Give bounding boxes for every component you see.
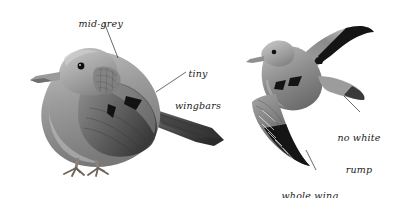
flying-dove-lower-wing-black-border <box>264 124 310 166</box>
annotation-no-white-rump-line1: no white <box>326 133 392 144</box>
annotation-mid-grey: mid-grey <box>72 8 123 29</box>
perched-dove-eye <box>78 63 85 70</box>
annotation-tiny-wingbars: tiny wingbars <box>160 48 236 122</box>
annotation-tiny-wingbars-line2: wingbars <box>160 101 236 112</box>
annotation-tiny-wingbars-line1: tiny <box>160 69 236 80</box>
flying-dove-eye <box>272 50 277 55</box>
annotation-mid-grey-text: mid-grey <box>78 18 123 29</box>
flying-dove-bill <box>246 56 264 63</box>
perched-dove-eye-highlight <box>79 64 81 66</box>
annotation-whole-wing-bordered-black: whole wing bordered black <box>254 170 366 198</box>
leader-line-whole-wing <box>306 150 316 170</box>
annotation-whole-wing-line1: whole wing <box>254 191 366 198</box>
